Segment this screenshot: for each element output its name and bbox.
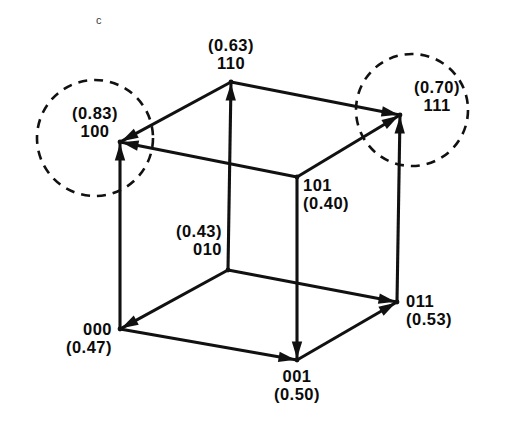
arrowhead-101-001	[292, 342, 302, 359]
edge-010-to-011	[228, 270, 396, 304]
node-010-value: (0.43)	[92, 222, 222, 240]
edge-101-to-001	[292, 177, 302, 359]
vertex-010[interactable]	[226, 268, 231, 273]
node-001-value: (0.50)	[237, 385, 357, 403]
edge-101-to-111	[297, 116, 399, 177]
edge-010-to-000	[121, 270, 228, 328]
edge-line-101-111	[297, 116, 399, 177]
node-label-010: (0.43)010	[92, 222, 222, 258]
node-111-value: (0.70)	[377, 78, 497, 96]
node-010-code: 010	[92, 240, 222, 258]
edge-line-010-011	[228, 270, 396, 302]
edge-line-000-001	[120, 329, 296, 360]
edge-line-001-011	[297, 303, 396, 360]
edge-001-to-011	[297, 303, 396, 360]
cube-diagram-figure: c (0.63)110(0.70)111(0.83)100101(0.40)(0…	[0, 0, 506, 426]
vertex-101[interactable]	[295, 175, 300, 180]
node-000-value: (0.47)	[0, 338, 112, 356]
node-011-value: (0.53)	[406, 310, 506, 328]
node-101-value: (0.40)	[303, 194, 433, 212]
vertex-011[interactable]	[395, 300, 400, 305]
node-label-001: 001(0.50)	[237, 367, 357, 403]
node-label-110: (0.63)110	[171, 36, 291, 72]
node-001-code: 001	[237, 367, 357, 385]
arrowhead-101-111	[381, 116, 398, 129]
node-110-code: 110	[171, 54, 291, 72]
edge-010-to-110	[226, 83, 236, 270]
node-110-value: (0.63)	[171, 36, 291, 54]
arrowhead-000-100	[115, 144, 125, 161]
vertex-001[interactable]	[295, 358, 300, 363]
arrowhead-010-000	[121, 316, 138, 329]
node-label-100: (0.83)100	[35, 104, 155, 140]
edge-line-010-000	[121, 270, 228, 328]
node-label-000: 000(0.47)	[0, 320, 112, 356]
vertex-100[interactable]	[118, 140, 123, 145]
arrowhead-001-011	[378, 303, 395, 316]
edge-line-110-111	[231, 82, 399, 115]
node-101-code: 101	[303, 176, 433, 194]
edge-110-to-111	[231, 82, 399, 117]
node-100-code: 100	[35, 122, 155, 140]
node-label-111: (0.70)111	[377, 78, 497, 114]
node-111-code: 111	[377, 96, 497, 114]
arrowhead-010-110	[226, 83, 236, 100]
node-000-code: 000	[0, 320, 112, 338]
node-011-code: 011	[406, 292, 506, 310]
edge-000-to-001	[120, 329, 296, 362]
node-100-value: (0.83)	[35, 104, 155, 122]
node-label-101: 101(0.40)	[303, 176, 433, 212]
vertex-110[interactable]	[229, 80, 234, 85]
node-label-011: 011(0.53)	[406, 292, 506, 328]
panel-letter-label: c	[96, 14, 102, 26]
vertex-000[interactable]	[118, 327, 123, 332]
edge-line-010-110	[228, 83, 231, 270]
